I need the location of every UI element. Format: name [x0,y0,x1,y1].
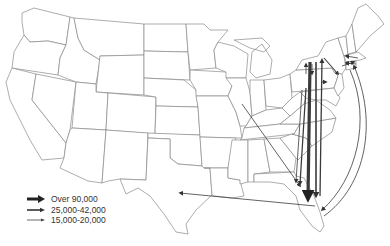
legend-item-over-90000: Over 90,000 [26,194,106,205]
legend-label: Over 90,000 [51,194,98,204]
legend-item-25000-42000: 25,000-42,000 [26,205,106,216]
state-mississippi [228,140,248,184]
state-florida [254,172,324,232]
state-kansas [155,106,200,135]
flow-ny-fl-heavy [308,62,310,198]
state-south-dakota [144,51,190,80]
legend-label: 15,000-20,000 [51,215,106,225]
state-maine [352,4,384,52]
medium-arrow-icon [26,206,46,214]
state-north-dakota [144,24,188,52]
state-colorado [106,93,156,134]
legend-label: 25,000-42,000 [51,205,106,215]
thin-arrow-icon [26,216,46,224]
state-indiana [250,80,266,116]
state-washington [22,8,70,45]
state-connecticut [346,61,356,70]
state-wyoming [96,55,144,95]
legend-item-15000-20000: 15,000-20,000 [26,215,106,226]
state-new-mexico [102,130,148,183]
map-legend: Over 90,000 25,000-42,000 15,000-20,000 [26,194,106,226]
state-new-york [296,38,346,74]
thick-arrow-icon [26,195,46,203]
